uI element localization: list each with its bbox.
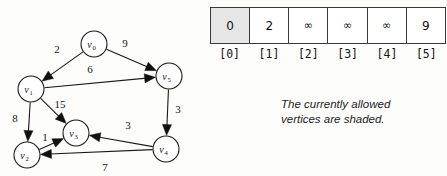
graph-panel: v0v1v2v3v4v5 2968151337: [0, 0, 205, 176]
distance-index-2: [2]: [289, 47, 328, 61]
edge-v1-to-v5: [44, 74, 155, 88]
arrowhead-v0-v5: [145, 62, 157, 71]
caption-line-2: vertices are shaded.: [281, 112, 441, 127]
edge-weight-v1-v2: 8: [12, 112, 18, 124]
distance-value-row: 02∞∞∞9: [211, 8, 446, 44]
edge-v5-to-v4: [162, 89, 171, 135]
edge-weight-v4-v3: 3: [125, 119, 131, 131]
caption-line-1: The currently allowed: [281, 97, 441, 112]
edge-weight-v1-v5: 6: [87, 63, 93, 75]
figure-root: v0v1v2v3v4v5 2968151337 distance 02∞∞∞9 …: [0, 0, 447, 176]
distance-cell-5: 9: [406, 8, 445, 44]
edge-v0-to-v5: [106, 49, 156, 70]
vertex-v2: v2: [14, 142, 40, 168]
distance-index-5: [5]: [407, 47, 446, 61]
edge-weight-v0-v1: 2: [54, 43, 60, 55]
arrowhead-v1-v5: [144, 74, 155, 83]
arrowhead-v4-v3: [89, 133, 101, 142]
vertex-v4: v4: [153, 136, 179, 162]
distance-cell-3: ∞: [328, 8, 367, 44]
distance-cell-0: 0: [211, 8, 250, 44]
vertices-layer: v0v1v2v3v4v5: [14, 31, 182, 168]
graph-diagram: v0v1v2v3v4v5 2968151337: [0, 0, 205, 176]
distance-array-panel: distance 02∞∞∞9 [0][1][2][3][4][5] The c…: [205, 0, 447, 176]
vertex-v5: v5: [156, 63, 182, 89]
arrowhead-v2-v3: [52, 139, 64, 148]
edge-v0-to-v1: [42, 52, 83, 81]
edge-v4-to-v2: [40, 149, 152, 158]
distance-cell-2: ∞: [289, 8, 328, 44]
vertex-v0: v0: [81, 31, 107, 57]
edge-weight-v5-v4: 3: [175, 103, 181, 115]
edge-v4-to-v3: [89, 133, 152, 147]
edge-weight-v1-v3: 15: [55, 98, 67, 110]
edge-weight-v0-v5: 9: [122, 37, 128, 49]
distance-index-4: [4]: [367, 47, 406, 61]
distance-index-0: [0]: [210, 47, 249, 61]
vertex-v1: v1: [18, 76, 44, 102]
distance-cell-4: ∞: [367, 8, 406, 44]
edge-weight-v2-v3: 1: [42, 131, 48, 143]
distance-cell-1: 2: [250, 8, 289, 44]
distance-index-3: [3]: [328, 47, 367, 61]
arrowhead-v5-v4: [162, 124, 171, 135]
arrowhead-v4-v2: [40, 149, 51, 158]
distance-index-row: [0][1][2][3][4][5]: [210, 47, 446, 61]
arrowhead-v1-v2: [24, 130, 33, 141]
vertex-v3: v3: [63, 120, 89, 146]
distance-array-table: 02∞∞∞9: [210, 7, 446, 44]
arrowhead-v0-v1: [42, 71, 54, 81]
edge-v1-to-v2: [24, 102, 33, 141]
figure-caption: The currently allowed vertices are shade…: [281, 97, 441, 127]
distance-index-1: [1]: [249, 47, 288, 61]
edge-weight-v4-v2: 7: [102, 161, 108, 173]
